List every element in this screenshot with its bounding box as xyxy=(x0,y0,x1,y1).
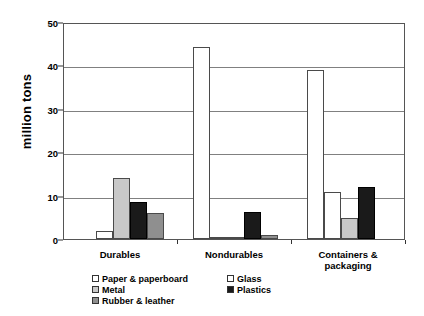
y-tick-label: 30 xyxy=(18,104,58,115)
legend-column-left: Paper & paperboardMetalRubber & leather xyxy=(92,273,188,306)
legend-label: Paper & paperboard xyxy=(102,274,188,284)
paper-swatch-icon xyxy=(92,275,99,282)
bar xyxy=(307,70,324,239)
bar xyxy=(147,213,164,239)
y-tick-label: 0 xyxy=(18,235,58,246)
bar xyxy=(113,178,130,239)
plastics-swatch-icon xyxy=(227,286,234,293)
y-tick-label: 50 xyxy=(18,18,58,29)
legend-item: Metal xyxy=(92,284,188,295)
bar xyxy=(210,237,227,239)
legend-label: Glass xyxy=(237,274,262,284)
legend-item: Plastics xyxy=(227,284,271,295)
metal-swatch-icon xyxy=(92,286,99,293)
bar xyxy=(261,235,278,239)
y-tick-label: 40 xyxy=(18,61,58,72)
bar xyxy=(341,218,358,239)
bar xyxy=(244,212,261,239)
x-tick-mark xyxy=(291,240,292,244)
bar xyxy=(324,192,341,239)
bar xyxy=(193,47,210,239)
legend-label: Metal xyxy=(102,285,125,295)
bar-chart: million tons 01020304050 DurablesNondura… xyxy=(0,0,424,316)
gridline xyxy=(64,111,404,112)
y-tick-label: 20 xyxy=(18,148,58,159)
x-category-label: Nondurables xyxy=(174,249,294,260)
x-category-label: Durables xyxy=(60,249,180,260)
bar xyxy=(130,202,147,239)
gridline xyxy=(64,67,404,68)
bar xyxy=(96,231,113,239)
legend-label: Plastics xyxy=(237,285,271,295)
x-category-label: Containers & packaging xyxy=(288,249,408,271)
glass-swatch-icon xyxy=(227,275,234,282)
legend-column-right: GlassPlastics xyxy=(227,273,271,295)
legend-item: Glass xyxy=(227,273,271,284)
bar xyxy=(358,187,375,239)
x-tick-mark xyxy=(177,240,178,244)
legend-label: Rubber & leather xyxy=(102,296,175,306)
gridline xyxy=(64,154,404,155)
rubber-swatch-icon xyxy=(92,297,99,304)
y-tick-label: 10 xyxy=(18,191,58,202)
legend-item: Rubber & leather xyxy=(92,295,188,306)
legend-item: Paper & paperboard xyxy=(92,273,188,284)
plot-area xyxy=(63,23,405,240)
x-tick-mark xyxy=(405,240,406,244)
bar xyxy=(227,237,244,239)
